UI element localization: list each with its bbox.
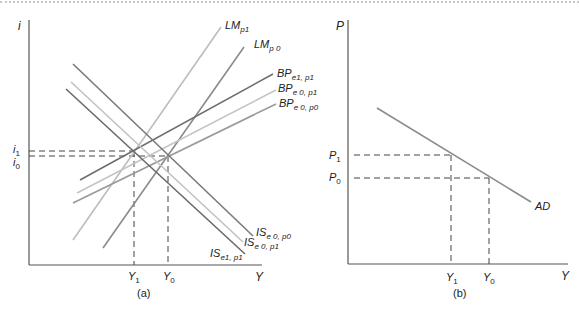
panel-b-caption: (b) — [453, 287, 466, 299]
ad-label: AD — [534, 200, 550, 212]
panel-a: i Y i1 i0 Y1 Y0 LMp1 LMp 0 BPe1, p1 BPe … — [13, 19, 319, 299]
y1-label-a: Y1 — [128, 270, 140, 285]
ad-curve — [377, 108, 531, 202]
y1-label-b: Y1 — [446, 271, 458, 286]
lm-p1-curve — [73, 27, 221, 240]
lm-p1-label: LMp1 — [225, 19, 249, 34]
lm-p0-curve — [103, 47, 244, 248]
panel-b-y-axis-label: P — [336, 19, 344, 33]
y0-label-a: Y0 — [163, 270, 175, 285]
i0-label: i0 — [13, 156, 20, 171]
is-e0-p0-curve — [73, 64, 253, 236]
bp-e0-p1-curve — [77, 90, 276, 193]
y0-label-b: Y0 — [483, 271, 495, 286]
panel-b: P Y P1 P0 Y1 Y0 AD (b) — [329, 19, 570, 299]
bp-e0-p1-label: BPe 0, p1 — [278, 82, 317, 97]
panel-a-x-axis-label: Y — [255, 270, 264, 284]
bp-e1-p1-label: BPe1, p1 — [277, 67, 314, 82]
is-e1-p1-label: ISe1, p1 — [210, 247, 243, 262]
p0-label: P0 — [329, 171, 341, 186]
panel-b-x-axis-label: Y — [561, 269, 570, 283]
is-e1-p1-curve — [66, 89, 245, 254]
lm-p0-label: LMp 0 — [254, 38, 281, 53]
is-lm-bp-ad-diagram: i Y i1 i0 Y1 Y0 LMp1 LMp 0 BPe1, p1 BPe … — [0, 0, 579, 313]
panel-a-caption: (a) — [137, 287, 150, 299]
is-e0-p1-curve — [71, 82, 243, 242]
is-e0-p0-label: ISe 0, p0 — [256, 226, 291, 241]
p1-label: P1 — [329, 149, 341, 164]
panel-a-y-axis-label: i — [18, 19, 21, 33]
bp-e0-p0-label: BPe 0, p0 — [279, 97, 319, 112]
